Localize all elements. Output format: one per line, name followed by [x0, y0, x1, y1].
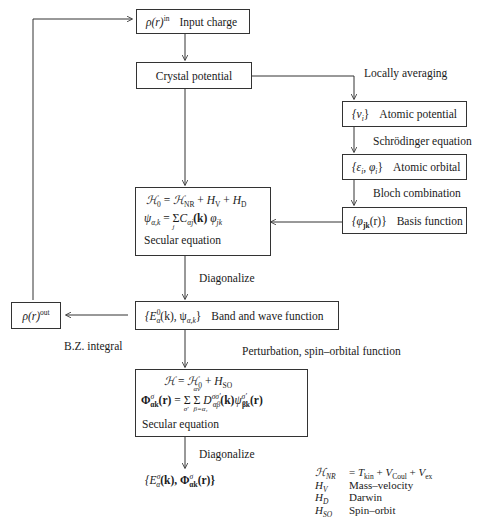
legend-item-hv: HV Mass–velocity — [315, 479, 432, 492]
input-charge-box: ρ(r)in Input charge — [136, 9, 250, 34]
basis-function-label: Basis function — [397, 215, 463, 227]
band-wave-function-box: {E0α(k), ψα,k} Band and wave function — [135, 301, 339, 330]
legend-item-hd: HD Darwin — [315, 491, 432, 504]
spin-orbit-wavefunction-equation: Φσαk(r) = Σσ' Σανβ=α₁ Dσσ'αβ(k)ψσ'βk(r) — [141, 393, 263, 408]
output-charge-symbol: ρ(r)out — [22, 310, 49, 322]
legend-item-hnr: ℋNR = Tkin + VCoul + Vex — [315, 466, 432, 479]
label-locally-averaging: Locally averaging — [364, 67, 447, 79]
atomic-potential-symbol: {vi} — [352, 108, 369, 120]
band-wave-symbol: {E0α(k), ψα,k} — [145, 310, 201, 322]
input-charge-label: Input charge — [180, 16, 238, 28]
output-charge-box: ρ(r)out — [11, 302, 61, 329]
crystal-potential-box: Crystal potential — [136, 62, 252, 89]
legend-item-hso: HSO Spin–orbit — [315, 504, 432, 517]
hamiltonian-h0-equation: ℋ0 = ℋNR + HV + HD — [146, 193, 246, 207]
atomic-orbital-label: Atomic orbital — [393, 161, 460, 173]
atomic-orbital-symbol: {εi, φi} — [352, 161, 383, 173]
secular-equation-label-2: Secular equation — [142, 418, 219, 430]
legend: ℋNR = Tkin + VCoul + Vex HV Mass–velocit… — [315, 466, 432, 516]
crystal-potential-label: Crystal potential — [156, 70, 232, 82]
secular-equation-box-1: ℋ0 = ℋNR + HV + HD ψα,k = ΣjCαj(k) φjk S… — [135, 187, 271, 256]
flowchart-diagram: ρ(r)in Input charge Crystal potential Lo… — [0, 0, 487, 532]
label-bz-integral: B.Z. integral — [64, 340, 122, 352]
band-wave-label: Band and wave function — [211, 310, 323, 322]
wavefunction-expansion-equation: ψα,k = ΣjCαj(k) φjk — [144, 211, 222, 226]
label-schrodinger-equation: Schrödinger equation — [373, 135, 472, 147]
input-charge-symbol: ρ(r)in — [146, 16, 170, 28]
final-result: {Eσα(k), Φσαk(r)} — [145, 474, 215, 486]
label-diagonalize-1: Diagonalize — [199, 272, 255, 284]
atomic-potential-label: Atomic potential — [379, 108, 457, 120]
label-bloch-combination: Bloch combination — [373, 187, 461, 199]
secular-equation-label-1: Secular equation — [144, 234, 221, 246]
secular-equation-box-2: ℋ = ℋ0 + HSO Φσαk(r) = Σσ' Σανβ=α₁ Dσσ'α… — [135, 369, 308, 437]
basis-function-symbol: {φjk(r)} — [352, 215, 387, 227]
basis-function-box: {φjk(r)} Basis function — [342, 207, 467, 234]
label-diagonalize-2: Diagonalize — [199, 448, 255, 460]
label-perturbation: Perturbation, spin–orbital function — [242, 345, 401, 357]
atomic-orbital-box: {εi, φi} Atomic orbital — [342, 154, 467, 180]
atomic-potential-box: {vi} Atomic potential — [342, 101, 467, 127]
